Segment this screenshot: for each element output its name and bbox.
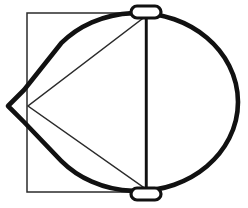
line-drawing-svg <box>0 0 248 208</box>
top-oval-cap <box>131 6 161 18</box>
bottom-oval-cap <box>131 188 161 200</box>
background <box>0 0 248 208</box>
figure-canvas <box>0 0 248 208</box>
